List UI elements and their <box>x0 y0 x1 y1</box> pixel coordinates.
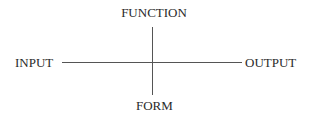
label-form: FORM <box>136 99 172 112</box>
label-function: FUNCTION <box>119 6 189 19</box>
vertical-axis-line <box>152 27 153 95</box>
label-input: INPUT <box>15 56 53 69</box>
label-output: OUTPUT <box>245 56 296 69</box>
